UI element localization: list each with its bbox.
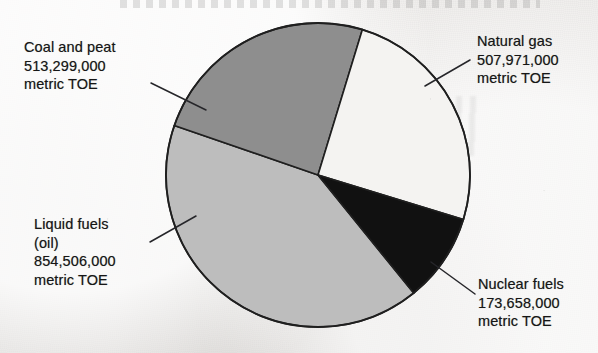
pie-label-liquid-unit: metric TOE (34, 271, 116, 290)
pie-chart-page: Coal and peat 513,299,000 metric TOE Nat… (0, 0, 598, 353)
leader-line-nuclear-fuels (431, 262, 475, 294)
pie-label-coal-and-peat: Coal and peat 513,299,000 metric TOE (24, 38, 116, 94)
pie-label-coal-value: 513,299,000 (24, 57, 116, 76)
pie-label-coal-unit: metric TOE (24, 75, 116, 94)
pie-label-natural-gas: Natural gas 507,971,000 metric TOE (477, 32, 559, 88)
pie-label-liquid-fuels: Liquid fuels (oil) 854,506,000 metric TO… (34, 215, 116, 289)
pie-label-nuclear-fuels: Nuclear fuels 173,658,000 metric TOE (478, 275, 564, 331)
pie-label-nuclear-unit: metric TOE (478, 312, 564, 331)
pie-label-liquid-name: Liquid fuels (34, 215, 116, 234)
pie-label-coal-name: Coal and peat (24, 38, 116, 57)
pie-label-gas-unit: metric TOE (477, 69, 559, 88)
pie-label-nuclear-value: 173,658,000 (478, 294, 564, 313)
pie-label-gas-name: Natural gas (477, 32, 559, 51)
pie-label-liquid-value: 854,506,000 (34, 252, 116, 271)
pie-label-liquid-qualifier: (oil) (34, 234, 116, 253)
pie-label-gas-value: 507,971,000 (477, 51, 559, 70)
pie-label-nuclear-name: Nuclear fuels (478, 275, 564, 294)
